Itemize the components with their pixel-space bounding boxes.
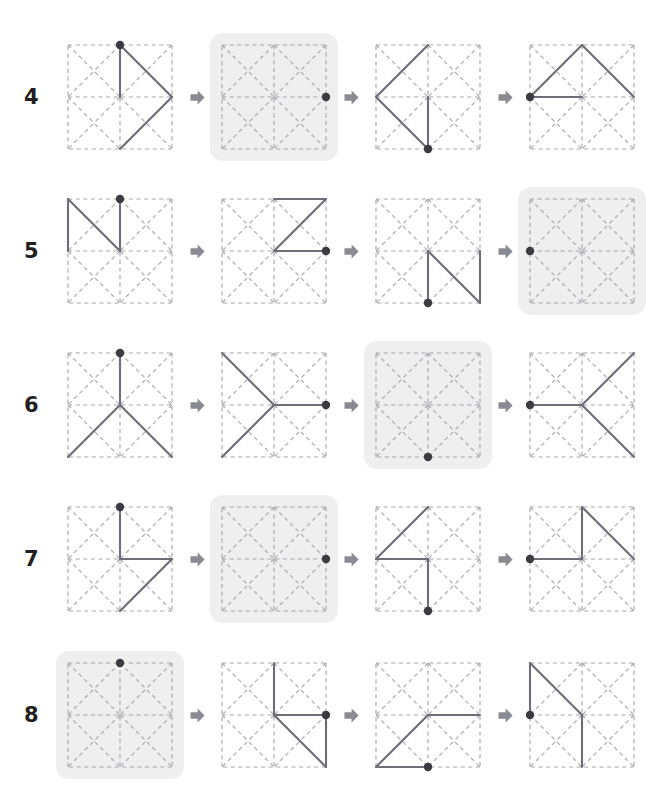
puzzle-row: 7 — [0, 484, 644, 634]
right-arrow-icon — [492, 341, 518, 469]
puzzle-grid — [56, 341, 184, 469]
puzzle-grid — [56, 495, 184, 623]
puzzle-panel-highlighted[interactable] — [518, 187, 646, 315]
endpoint-dot-icon — [322, 555, 330, 563]
puzzle-grid — [518, 187, 646, 315]
puzzle-panel-highlighted[interactable] — [210, 495, 338, 623]
puzzle-grid — [210, 187, 338, 315]
right-arrow-icon — [338, 651, 364, 779]
right-arrow-icon — [338, 33, 364, 161]
puzzle-panel[interactable] — [210, 341, 338, 469]
right-arrow-icon — [184, 187, 210, 315]
puzzle-panel[interactable] — [56, 187, 184, 315]
right-arrow-icon — [492, 187, 518, 315]
puzzle-panel[interactable] — [518, 495, 646, 623]
puzzle-panel[interactable] — [364, 651, 492, 779]
puzzle-grid — [210, 33, 338, 161]
endpoint-dot-icon — [526, 247, 534, 255]
puzzle-panel-highlighted[interactable] — [364, 341, 492, 469]
puzzle-grid — [518, 495, 646, 623]
puzzle-panel[interactable] — [56, 341, 184, 469]
right-arrow-icon — [184, 341, 210, 469]
puzzle-row: 5 — [0, 176, 644, 326]
puzzle-grid — [518, 33, 646, 161]
row-number-label: 6 — [24, 393, 39, 417]
endpoint-dot-icon — [526, 401, 534, 409]
puzzle-grid — [364, 33, 492, 161]
puzzle-grid — [210, 651, 338, 779]
panel-sequence — [56, 640, 646, 790]
right-arrow-icon — [492, 651, 518, 779]
row-number-label: 8 — [24, 703, 39, 727]
endpoint-dot-icon — [424, 763, 432, 771]
puzzle-panel[interactable] — [56, 495, 184, 623]
puzzle-panel[interactable] — [56, 33, 184, 161]
row-number-label: 5 — [24, 239, 39, 263]
endpoint-dot-icon — [526, 93, 534, 101]
right-arrow-icon — [184, 33, 210, 161]
arrow-glyph — [498, 244, 512, 258]
puzzle-grid — [210, 495, 338, 623]
endpoint-dot-icon — [322, 711, 330, 719]
panel-sequence — [56, 22, 646, 172]
puzzle-panel[interactable] — [518, 651, 646, 779]
puzzle-grid — [364, 495, 492, 623]
endpoint-dot-icon — [424, 453, 432, 461]
arrow-glyph — [344, 552, 358, 566]
endpoint-dot-icon — [322, 247, 330, 255]
endpoint-dot-icon — [116, 659, 124, 667]
puzzle-grid — [364, 651, 492, 779]
puzzle-panel[interactable] — [210, 651, 338, 779]
right-arrow-icon — [492, 495, 518, 623]
endpoint-dot-icon — [424, 607, 432, 615]
endpoint-dot-icon — [424, 145, 432, 153]
arrow-glyph — [498, 90, 512, 104]
panel-sequence — [56, 330, 646, 480]
endpoint-dot-icon — [526, 711, 534, 719]
puzzle-row: 6 — [0, 330, 644, 480]
puzzle-grid — [56, 33, 184, 161]
endpoint-dot-icon — [116, 503, 124, 511]
arrow-glyph — [190, 90, 204, 104]
puzzle-row: 4 — [0, 22, 644, 172]
arrow-glyph — [190, 398, 204, 412]
panel-sequence — [56, 484, 646, 634]
puzzle-grid — [518, 651, 646, 779]
endpoint-dot-icon — [116, 349, 124, 357]
arrow-glyph — [190, 708, 204, 722]
arrow-glyph — [498, 398, 512, 412]
right-arrow-icon — [184, 495, 210, 623]
puzzle-panel[interactable] — [364, 33, 492, 161]
puzzle-panel-highlighted[interactable] — [56, 651, 184, 779]
endpoint-dot-icon — [322, 93, 330, 101]
right-arrow-icon — [338, 495, 364, 623]
endpoint-dot-icon — [116, 195, 124, 203]
puzzle-grid — [364, 341, 492, 469]
endpoint-dot-icon — [526, 555, 534, 563]
right-arrow-icon — [184, 651, 210, 779]
endpoint-dot-icon — [424, 299, 432, 307]
arrow-glyph — [498, 552, 512, 566]
right-arrow-icon — [338, 187, 364, 315]
puzzle-panel-highlighted[interactable] — [210, 33, 338, 161]
puzzle-panel[interactable] — [518, 33, 646, 161]
right-arrow-icon — [338, 341, 364, 469]
puzzle-grid — [210, 341, 338, 469]
arrow-glyph — [190, 552, 204, 566]
row-number-label: 7 — [24, 547, 39, 571]
endpoint-dot-icon — [116, 41, 124, 49]
arrow-glyph — [344, 708, 358, 722]
puzzle-grid — [518, 341, 646, 469]
puzzle-panel[interactable] — [364, 495, 492, 623]
row-number-label: 4 — [24, 85, 39, 109]
arrow-glyph — [498, 708, 512, 722]
puzzle-panel[interactable] — [518, 341, 646, 469]
puzzle-grid — [56, 651, 184, 779]
puzzle-row: 8 — [0, 640, 644, 790]
puzzle-panel[interactable] — [364, 187, 492, 315]
arrow-glyph — [344, 398, 358, 412]
arrow-glyph — [344, 90, 358, 104]
puzzle-panel[interactable] — [210, 187, 338, 315]
puzzle-grid — [56, 187, 184, 315]
right-arrow-icon — [492, 33, 518, 161]
